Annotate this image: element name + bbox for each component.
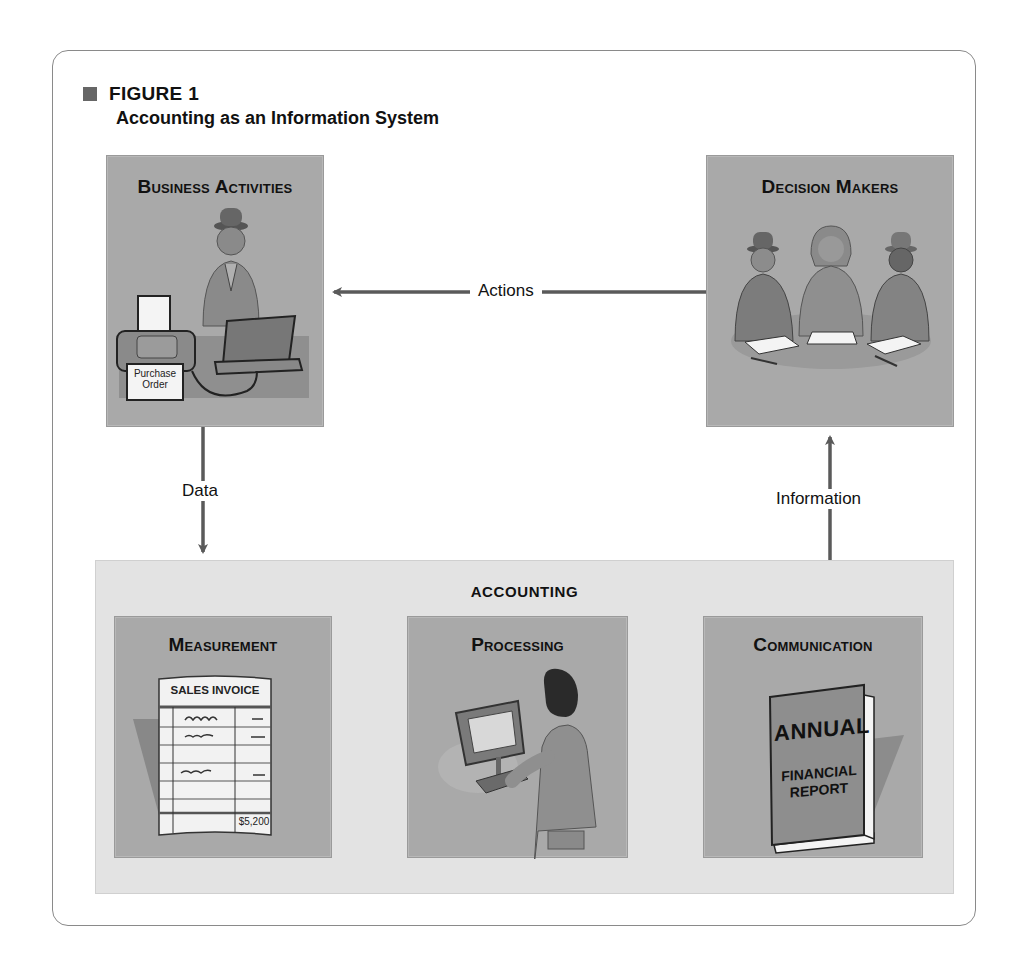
person-at-computer-illustration: [408, 617, 629, 859]
actions-label: Actions: [470, 281, 542, 301]
invoice-title: SALES INVOICE: [159, 684, 271, 696]
decision-makers-box: Decision Makers: [706, 155, 954, 427]
accounting-label: ACCOUNTING: [96, 583, 953, 600]
purchase-order-label: Purchase Order: [127, 368, 183, 390]
processing-box: Processing: [407, 616, 628, 858]
information-label: Information: [768, 489, 869, 509]
meeting-illustration: [707, 156, 955, 428]
measurement-box: Measurement SALES INVOICE $5,200: [114, 616, 332, 858]
business-activities-box: Business Activities Purchase Order: [106, 155, 324, 427]
invoice-amount: $5,200: [237, 816, 271, 827]
sales-invoice-illustration: [115, 617, 333, 859]
data-label: Data: [174, 481, 226, 501]
communication-box: Communication ANNUAL FINANCIAL REPORT: [703, 616, 923, 858]
